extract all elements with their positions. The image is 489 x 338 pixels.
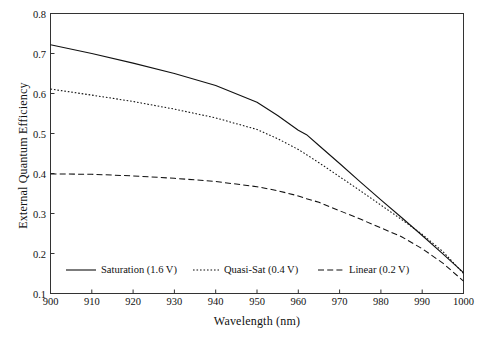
x-axis-ticks <box>51 290 464 294</box>
series-line-0 <box>51 45 464 273</box>
y-tick-label-0.7: 0.7 <box>16 48 46 59</box>
y-tick-label-0.5: 0.5 <box>16 128 46 139</box>
y-axis-title: External Quantum Efficiency <box>16 46 31 266</box>
plot-canvas <box>0 0 489 338</box>
x-tick-label-920: 920 <box>125 296 141 307</box>
x-tick-label-990: 990 <box>414 296 430 307</box>
chart-figure: External Quantum Efficiency Wavelength (… <box>0 0 489 338</box>
y-tick-label-0.3: 0.3 <box>16 208 46 219</box>
x-tick-label-960: 960 <box>290 296 306 307</box>
legend-label-2: Linear (0.2 V) <box>349 264 409 275</box>
x-tick-label-1000: 1000 <box>453 296 474 307</box>
y-tick-label-0.2: 0.2 <box>16 248 46 259</box>
x-axis-title: Wavelength (nm) <box>50 314 464 329</box>
series-line-1 <box>51 89 464 273</box>
y-axis-ticks <box>51 14 55 294</box>
legend-label-0: Saturation (1.6 V) <box>101 264 177 275</box>
x-tick-label-970: 970 <box>332 296 348 307</box>
plot-frame <box>51 14 464 294</box>
y-tick-label-0.6: 0.6 <box>16 88 46 99</box>
x-tick-label-980: 980 <box>373 296 389 307</box>
y-tick-label-0.1: 0.1 <box>16 288 46 299</box>
x-tick-label-910: 910 <box>84 296 100 307</box>
x-tick-label-950: 950 <box>249 296 265 307</box>
x-tick-label-940: 940 <box>208 296 224 307</box>
data-series-group <box>51 45 464 281</box>
y-tick-label-0.4: 0.4 <box>16 168 46 179</box>
legend-label-1: Quasi-Sat (0.4 V) <box>224 264 298 275</box>
y-tick-label-0.8: 0.8 <box>16 8 46 19</box>
x-tick-label-930: 930 <box>167 296 183 307</box>
